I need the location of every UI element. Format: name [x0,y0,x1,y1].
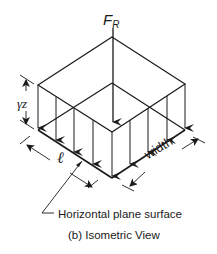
surface-callout-leader [42,161,82,213]
pressure-label: γz [17,97,27,110]
plane-edge-back-left [38,83,112,130]
figure-caption: (b) Isometric View [68,230,160,242]
isometric-diagram: FR γz ℓ width Horizontal plane surface (… [0,0,217,254]
resultant-force-label: FR [103,12,119,30]
top-face [38,37,185,132]
surface-callout-label: Horizontal plane surface [58,209,182,221]
length-label: ℓ [57,150,64,166]
